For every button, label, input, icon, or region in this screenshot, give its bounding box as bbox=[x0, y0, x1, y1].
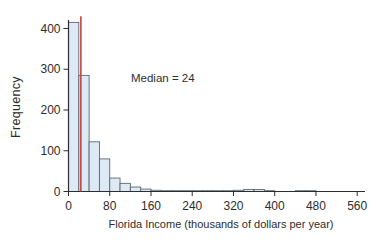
histogram-bar bbox=[120, 183, 130, 191]
histogram-figure: 0801602403204004805600100200300400 Frequ… bbox=[0, 0, 388, 248]
x-tick-label: 80 bbox=[103, 199, 117, 213]
x-tick-label: 240 bbox=[182, 199, 202, 213]
median-annotation: Median = 24 bbox=[131, 72, 195, 84]
x-tick-label: 480 bbox=[306, 199, 326, 213]
histogram-bar bbox=[99, 159, 109, 192]
histogram-bar bbox=[110, 178, 120, 191]
x-tick-label: 400 bbox=[265, 199, 285, 213]
y-axis-title: Frequency bbox=[9, 76, 23, 138]
y-tick-label: 400 bbox=[40, 22, 60, 36]
histogram-bar bbox=[69, 22, 79, 191]
y-tick-label: 0 bbox=[54, 185, 61, 199]
histogram-canvas: 0801602403204004805600100200300400 bbox=[0, 0, 388, 248]
x-tick-label: 320 bbox=[223, 199, 243, 213]
y-tick-label: 100 bbox=[40, 144, 60, 158]
x-tick-label: 0 bbox=[65, 199, 72, 213]
x-tick-label: 560 bbox=[347, 199, 367, 213]
histogram-bar bbox=[130, 187, 140, 191]
y-tick-label: 300 bbox=[40, 62, 60, 76]
y-tick-label: 200 bbox=[40, 103, 60, 117]
x-axis-title: Florida Income (thousands of dollars per… bbox=[109, 218, 334, 230]
x-tick-label: 160 bbox=[141, 199, 161, 213]
histogram-bar bbox=[89, 142, 99, 192]
